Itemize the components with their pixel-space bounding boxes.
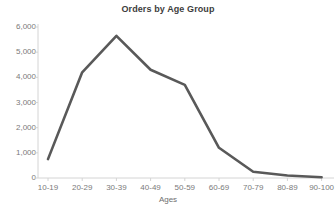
x-axis-tick-label: 90-100	[302, 183, 336, 193]
data-series-line	[48, 36, 322, 177]
chart-container: Orders by Age Group 01,0002,0003,0004,00…	[0, 0, 336, 212]
x-axis-tick-labels: 10-1920-2930-3940-4950-5960-6970-7980-89…	[0, 183, 336, 195]
plot-area	[0, 0, 336, 212]
x-axis-title: Ages	[0, 195, 336, 204]
